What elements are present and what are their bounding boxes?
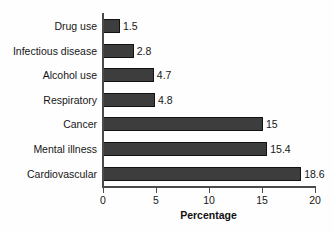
category-label: Respiratory xyxy=(0,93,97,108)
bar-row: Cancer15 xyxy=(0,113,333,138)
x-axis-tick-label: 20 xyxy=(300,193,330,207)
bar xyxy=(104,44,134,58)
bar-row: Respiratory4.8 xyxy=(0,89,333,114)
category-label: Cardiovascular xyxy=(0,167,97,182)
category-label: Infectious disease xyxy=(0,44,97,59)
bar xyxy=(104,167,301,181)
category-label: Alcohol use xyxy=(0,68,97,83)
bar-value-label: 18.6 xyxy=(304,167,324,182)
bar xyxy=(104,117,263,131)
bar-value-label: 15.4 xyxy=(270,142,290,157)
bar xyxy=(104,68,154,82)
category-label: Drug use xyxy=(0,19,97,34)
bar-value-label: 4.7 xyxy=(157,68,172,83)
bar-value-label: 15 xyxy=(266,117,278,132)
x-axis-tick-label: 10 xyxy=(194,193,224,207)
x-axis-tick-label: 0 xyxy=(88,193,118,207)
bar-row: Alcohol use4.7 xyxy=(0,64,333,89)
bar-value-label: 2.8 xyxy=(137,44,152,59)
bar xyxy=(104,142,267,156)
bar-chart-figure: Drug use1.5Infectious disease2.8Alcohol … xyxy=(0,0,333,232)
bar xyxy=(104,19,120,33)
bar-row: Drug use1.5 xyxy=(0,15,333,40)
x-axis-tick-label: 5 xyxy=(141,193,171,207)
bar-value-label: 4.8 xyxy=(158,93,173,108)
bar xyxy=(104,93,155,107)
category-label: Cancer xyxy=(0,117,97,132)
x-axis-title: Percentage xyxy=(0,209,333,221)
x-axis-tick-label: 15 xyxy=(247,193,277,207)
bar-row: Cardiovascular18.6 xyxy=(0,163,333,188)
category-label: Mental illness xyxy=(0,142,97,157)
x-axis-title-text: Percentage xyxy=(180,209,237,221)
bar-row: Infectious disease2.8 xyxy=(0,40,333,65)
bar-value-label: 1.5 xyxy=(123,19,138,34)
bar-row: Mental illness15.4 xyxy=(0,138,333,163)
plot-area: Drug use1.5Infectious disease2.8Alcohol … xyxy=(0,0,333,232)
